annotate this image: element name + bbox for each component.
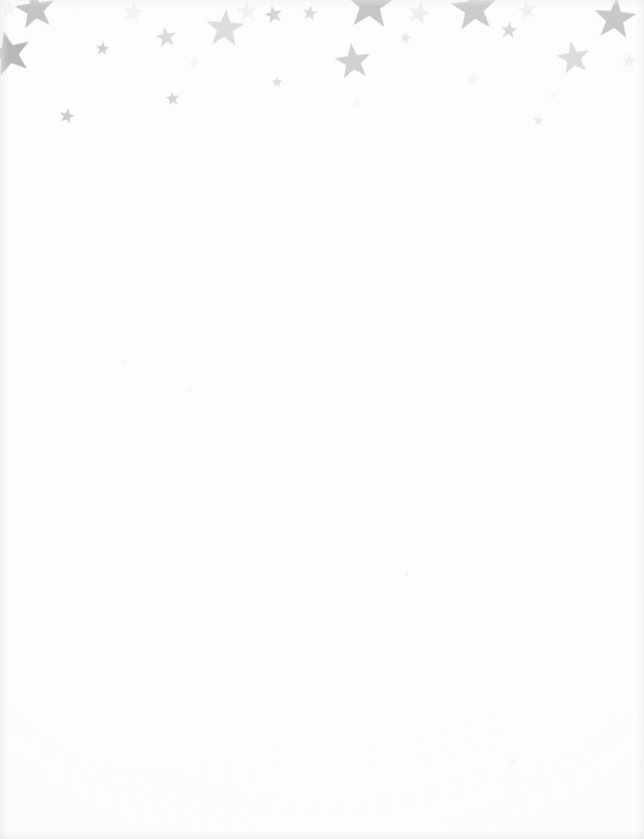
blank-writing-area xyxy=(0,150,644,839)
stationery-page xyxy=(0,0,644,839)
